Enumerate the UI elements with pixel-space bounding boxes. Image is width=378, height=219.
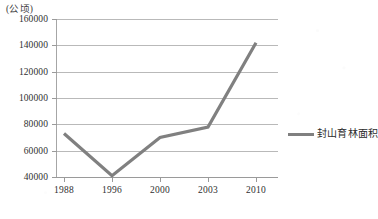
gridline xyxy=(56,19,278,20)
y-axis-tick xyxy=(52,19,57,20)
y-axis-tick-label: 80000 xyxy=(0,119,48,129)
y-axis-tick-label: 160000 xyxy=(0,14,48,24)
legend-line-swatch-icon xyxy=(288,133,314,136)
x-axis-tick xyxy=(64,178,65,182)
y-axis-tick xyxy=(52,151,57,152)
legend-item-label: 封山育林面积 xyxy=(317,128,378,140)
x-axis-tick-label: 2000 xyxy=(137,185,183,196)
plot-area xyxy=(56,19,278,177)
x-axis-tick xyxy=(256,178,257,182)
y-axis-tick-label: 120000 xyxy=(0,67,48,77)
gridline xyxy=(56,177,278,178)
y-axis-tick-label: 140000 xyxy=(0,40,48,50)
chart-legend: 封山育林面积 xyxy=(288,128,378,140)
x-axis-tick-label: 1996 xyxy=(89,185,135,196)
gridline xyxy=(56,45,278,46)
gridline xyxy=(56,72,278,73)
x-axis-tick xyxy=(160,178,161,182)
x-axis-tick-label: 2010 xyxy=(233,185,279,196)
y-axis-tick xyxy=(52,98,57,99)
y-axis-tick-label: 40000 xyxy=(0,172,48,182)
line-chart: (公顷) 16000014000012000010000080000600004… xyxy=(0,0,378,219)
y-axis-tick xyxy=(52,72,57,73)
gridline xyxy=(56,124,278,125)
gridline xyxy=(56,98,278,99)
x-axis-tick-label: 1988 xyxy=(41,185,87,196)
x-axis-tick-label: 2003 xyxy=(185,185,231,196)
x-axis-tick xyxy=(208,178,209,182)
y-axis-tick-label: 100000 xyxy=(0,93,48,103)
y-axis-tick xyxy=(52,45,57,46)
y-axis-tick-label: 60000 xyxy=(0,146,48,156)
y-axis-tick xyxy=(52,177,57,178)
x-axis-tick xyxy=(112,178,113,182)
gridline xyxy=(56,151,278,152)
y-axis-tick xyxy=(52,124,57,125)
